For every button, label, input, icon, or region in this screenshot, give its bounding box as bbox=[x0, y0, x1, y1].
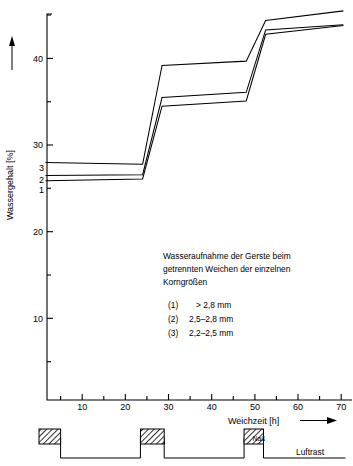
annotation-line-3: Korngrößen bbox=[163, 277, 208, 287]
legend-value-1: > 2,8 mm bbox=[196, 300, 231, 310]
curve-label-3: 3 bbox=[39, 163, 44, 173]
y-ticklabel-10: 10 bbox=[33, 314, 43, 324]
legend-value-3: 2,2–2,5 mm bbox=[189, 328, 233, 338]
curve-label-1: 1 bbox=[39, 185, 44, 195]
y-ticklabel-20: 20 bbox=[33, 227, 43, 237]
x-ticklabel-20: 20 bbox=[120, 402, 130, 412]
legend-key-2: (2) bbox=[168, 314, 178, 324]
wet-phase-label: Naß bbox=[253, 435, 265, 442]
data-curves bbox=[45, 11, 343, 181]
y-axis-label-group: Wassergehalt [%] bbox=[5, 36, 15, 220]
x-ticklabel-50: 50 bbox=[250, 402, 260, 412]
y-ticklabel-40: 40 bbox=[33, 54, 43, 64]
y-ticklabel-30: 30 bbox=[33, 140, 43, 150]
curve-label-2: 2 bbox=[39, 175, 44, 185]
x-axis-arrow-head bbox=[327, 417, 337, 424]
series-line-1 bbox=[45, 26, 343, 181]
x-axis-title: Weichzeit [h] bbox=[228, 416, 279, 426]
series-line-2 bbox=[45, 25, 343, 176]
x-ticklabel-40: 40 bbox=[207, 402, 217, 412]
water-uptake-chart-figure: Wassergehalt [%] 40 30 20 10 bbox=[0, 0, 353, 466]
wet-phase-block-2 bbox=[140, 429, 164, 444]
legend-key-3: (3) bbox=[168, 328, 178, 338]
x-axis-ticks: 10 20 30 40 50 60 70 bbox=[61, 394, 347, 412]
curve-index-labels: 3 2 1 bbox=[39, 163, 44, 195]
axis-frame bbox=[47, 14, 352, 400]
process-diagram: Naß Luftrast bbox=[39, 429, 346, 458]
x-ticklabel-70: 70 bbox=[336, 402, 346, 412]
series-line-3 bbox=[45, 11, 343, 164]
y-axis-title: Wassergehalt [%] bbox=[5, 150, 15, 220]
process-wet-blocks bbox=[39, 429, 264, 444]
x-axis-label-group: Weichzeit [h] bbox=[228, 416, 337, 426]
legend-value-2: 2,5–2,8 mm bbox=[189, 314, 233, 324]
annotation-line-1: Wasseraufnahme der Gerste beim bbox=[163, 251, 291, 261]
axis-lines bbox=[47, 14, 352, 400]
legend-key-1: (1) bbox=[168, 300, 178, 310]
annotation-line-2: getrennten Weichen der einzelnen bbox=[163, 264, 291, 274]
x-ticklabel-30: 30 bbox=[163, 402, 173, 412]
x-ticklabel-60: 60 bbox=[293, 402, 303, 412]
y-axis-arrow-head bbox=[9, 36, 15, 46]
wet-phase-block-1 bbox=[39, 429, 61, 444]
annotation-block: Wasseraufnahme der Gerste beim getrennte… bbox=[163, 251, 291, 338]
x-ticklabel-10: 10 bbox=[77, 402, 87, 412]
air-rest-label: Luftrast bbox=[296, 447, 325, 457]
